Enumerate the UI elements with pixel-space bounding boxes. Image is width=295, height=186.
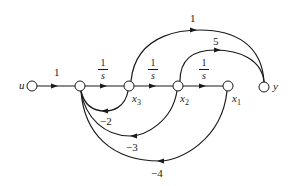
label-x1-sub: 1: [237, 98, 241, 107]
label-x1: x1: [232, 93, 241, 107]
node-x2: [173, 81, 183, 91]
edge-x3-n1: [81, 91, 128, 114]
gain-x2-x1-den: s: [199, 70, 209, 81]
node-x3: [124, 81, 134, 91]
node-y: [259, 82, 269, 92]
edge-x2-x1: [183, 84, 223, 89]
gain-x3-y: 1: [190, 13, 196, 24]
gain-x2-x1: 1 s: [199, 58, 209, 81]
gain-u-n1: 1: [54, 67, 60, 78]
label-x2: x2: [180, 93, 189, 107]
gain-n1-x3-den: s: [98, 70, 108, 81]
edge-n1-x3: [85, 84, 124, 89]
label-x3: x3: [132, 93, 141, 107]
edge-x2-n1: [81, 91, 177, 139]
label-u: u: [19, 80, 25, 91]
node-x1: [223, 81, 233, 91]
label-x3-sub: 3: [137, 98, 141, 107]
edge-u-n1: [37, 84, 75, 89]
gain-x3-n1: −2: [100, 116, 112, 127]
gain-x3-x2-num: 1: [148, 58, 158, 70]
gain-x3-x2-den: s: [148, 70, 158, 81]
gain-x2-x1-num: 1: [199, 58, 209, 70]
gain-x2-n1: −3: [126, 142, 138, 153]
edge-x3-x2: [134, 84, 173, 89]
label-x2-sub: 2: [185, 98, 189, 107]
gain-x2-y: 5: [213, 36, 219, 47]
gain-n1-x3-num: 1: [98, 58, 108, 70]
node-u: [27, 81, 37, 91]
node-junction: [75, 81, 85, 91]
gain-x3-x2: 1 s: [148, 58, 158, 81]
edge-x2-y: [180, 48, 264, 83]
gain-x1-n1: −4: [151, 168, 163, 179]
label-y: y: [273, 81, 278, 92]
signal-flow-graph: [0, 0, 295, 186]
gain-n1-x3: 1 s: [98, 58, 108, 81]
